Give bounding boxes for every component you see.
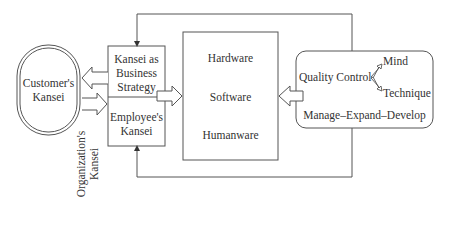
- business-strategy-line2: Business: [108, 66, 165, 80]
- resource-hardware: Hardware: [183, 51, 278, 65]
- resource-software: Software: [183, 90, 278, 104]
- quality-technique-label: Technique: [383, 86, 431, 100]
- resource-humanware: Humanware: [183, 128, 278, 142]
- business-strategy-line1: Kansei as: [108, 52, 165, 66]
- organization-kansei-label: Organization's Kansei: [75, 122, 101, 203]
- business-strategy-label: Kansei as Business Strategy: [108, 52, 165, 94]
- employee-kansei-line2: Kansei: [108, 124, 165, 138]
- quality-mind-label: Mind: [383, 54, 408, 68]
- block-arrow-to-customer: [82, 67, 108, 89]
- quality-control-label: Quality Control: [299, 70, 372, 84]
- quality-cycle-label: Manage–Expand–Develop: [296, 108, 433, 122]
- customer-label-line1: Customer's: [20, 76, 77, 90]
- customer-label: Customer's Kansei: [20, 76, 77, 104]
- employee-kansei-line1: Employee's: [108, 110, 165, 124]
- organization-label-line2: Kansei: [88, 122, 101, 203]
- employee-kansei-label: Employee's Kansei: [108, 110, 165, 138]
- block-arrow-to-organization: [82, 93, 107, 115]
- organization-label-line1: Organization's: [75, 122, 88, 203]
- business-strategy-line3: Strategy: [108, 80, 165, 94]
- customer-label-line2: Kansei: [20, 90, 77, 104]
